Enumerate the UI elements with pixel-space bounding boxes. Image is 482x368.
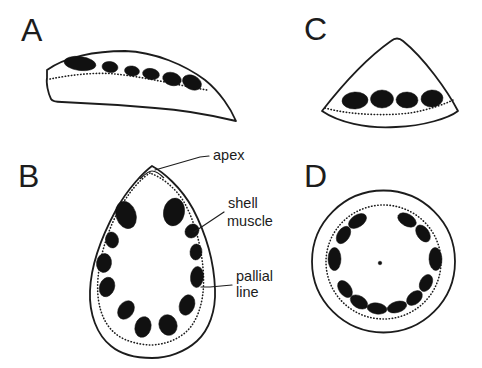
muscle-scar [371, 90, 394, 108]
pallial-line-label-line1: pallial [236, 268, 273, 284]
shell-muscle-label-line2: muscle [227, 213, 273, 229]
apex-leader-line [155, 156, 209, 170]
apex-label: apex [213, 147, 245, 163]
panel-a-letter: A [21, 12, 43, 48]
panel-c-letter: C [304, 11, 327, 47]
panel-b-letter: B [18, 158, 39, 194]
panel-b: B [18, 158, 215, 358]
muscle-scar [328, 248, 341, 271]
shell-diagram-svg: A C [0, 0, 482, 368]
panel-c: C [304, 11, 458, 127]
panel-d-apex-dot [378, 261, 382, 265]
panel-a: A [21, 12, 236, 121]
shell-anatomy-figure: A C [0, 0, 482, 368]
shell-muscle-label-line1: shell [228, 195, 258, 211]
pallial-line-label-line2: line [236, 284, 259, 300]
panel-d: D [304, 158, 455, 333]
panel-d-letter: D [304, 158, 327, 194]
